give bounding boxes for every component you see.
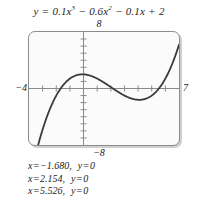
equation-term1-exponent: 3 [72, 4, 76, 12]
solution-row: x=5.526,y=0 [28, 185, 198, 198]
equation-equals: = [41, 5, 49, 17]
solution-y-value: 0 [83, 185, 88, 196]
equation-term3-var: x [140, 5, 145, 17]
solution-y-value: 0 [90, 160, 95, 171]
x-min-label: −4 [5, 82, 27, 93]
calculator-screen [28, 31, 180, 146]
equation-sign2: − [115, 5, 123, 17]
y-min-label: −8 [0, 147, 198, 158]
equation-term2-coef: 0.6 [89, 5, 103, 17]
solution-y-label: y [71, 173, 75, 184]
solution-y-value: 0 [83, 173, 88, 184]
solution-x-equals: = [32, 185, 40, 196]
equation-constant: 2 [159, 5, 165, 17]
solution-x-equals: = [32, 160, 40, 171]
equation-term3-coef: 0.1 [126, 5, 140, 17]
solution-row: x=−1.680,y=0 [28, 160, 198, 173]
x-max-label: 7 [183, 82, 197, 93]
solution-y-equals: = [82, 160, 90, 171]
equation-term1-coef: 0.1 [52, 5, 66, 17]
equation-sign1: − [78, 5, 86, 17]
equation-sign3: + [148, 5, 156, 17]
solution-x-value: 2.154, [40, 173, 65, 184]
equation-caption: y = 0.1x3 − 0.6x2 − 0.1x + 2 [0, 4, 198, 18]
graphing-utility-figure: y = 0.1x3 − 0.6x2 − 0.1x + 2 8 −4 7 −8 [0, 0, 198, 200]
y-max-label: 8 [0, 18, 198, 29]
solution-y-label: y [71, 185, 75, 196]
solution-x-value: −1.680, [40, 160, 72, 171]
solution-x-equals: = [32, 173, 40, 184]
equation-term2-exponent: 2 [108, 4, 112, 12]
cubic-curve [29, 45, 179, 146]
solution-x-value: 5.526, [40, 185, 65, 196]
solution-readout: x=−1.680,y=0 x=2.154,y=0 x=5.526,y=0 [28, 160, 198, 198]
equation-lhs: y [33, 5, 38, 17]
plot-canvas [28, 31, 180, 146]
solution-row: x=2.154,y=0 [28, 173, 198, 186]
